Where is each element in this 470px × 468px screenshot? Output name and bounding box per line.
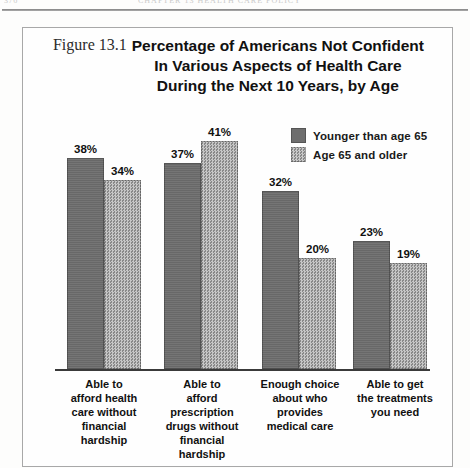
category-label-line: Able to get [345,378,445,392]
category-label-line: hardship [59,434,149,448]
bar-older-0: 34% [104,180,141,369]
bar-value-younger-2: 32% [269,176,292,188]
bar-value-younger-1: 37% [171,148,194,160]
category-label-line: Able to [157,378,247,392]
category-label-line: care without [59,406,149,420]
category-label-line: drugs without [157,420,247,434]
bar-younger-2: 32% [262,191,299,369]
bar-value-older-0: 34% [111,165,134,177]
bar-value-older-1: 41% [208,126,231,138]
bar-older-3: 19% [390,263,427,369]
category-label-line: afford [157,392,247,406]
category-label-line: afford health [59,392,149,406]
figure-container: Figure 13.1 Percentage of Americans Not … [22,27,453,467]
bar-younger-1: 37% [164,163,201,369]
bar-older-2: 20% [299,258,336,369]
category-label-line: about who [249,392,351,406]
category-label-line: financial [157,434,247,448]
bar-chart-plot: 38% 34% 37% 41% 32% 20% 23% [23,28,454,468]
bar-group-0: 38% 34% [67,119,141,369]
bar-value-younger-0: 38% [74,143,97,155]
category-label-1: Able toaffordprescriptiondrugs withoutfi… [157,378,247,462]
category-label-line: prescription [157,406,247,420]
bar-younger-0: 38% [67,158,104,369]
page-folio: 376 [4,0,18,5]
category-label-line: you need [345,406,445,420]
running-title: CHAPTER 13 HEALTH CARE POLICY [138,0,301,5]
category-label-line: provides [249,406,351,420]
x-axis-baseline [55,369,430,371]
bar-group-2: 32% 20% [262,119,336,369]
header-rule [2,9,468,11]
category-label-line: Enough choice [249,378,351,392]
bar-group-1: 37% 41% [164,119,238,369]
category-label-0: Able toafford healthcare withoutfinancia… [59,378,149,448]
bar-value-older-2: 20% [306,243,329,255]
bar-value-older-3: 19% [397,248,420,260]
category-label-2: Enough choiceabout whoprovidesmedical ca… [249,378,351,434]
category-label-line: hardship [157,448,247,462]
category-label-3: Able to getthe treatmentsyou need [345,378,445,420]
category-label-line: the treatments [345,392,445,406]
bar-older-1: 41% [201,141,238,369]
bar-value-younger-3: 23% [360,226,383,238]
bar-younger-3: 23% [353,241,390,369]
category-label-line: financial [59,420,149,434]
bar-group-3: 23% 19% [353,119,427,369]
category-label-line: medical care [249,420,351,434]
category-label-line: Able to [59,378,149,392]
